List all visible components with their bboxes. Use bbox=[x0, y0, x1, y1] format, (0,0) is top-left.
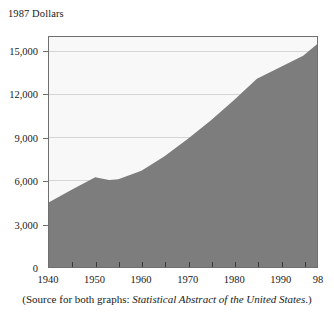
y-tick-mark bbox=[43, 181, 48, 182]
x-tick-label: 98 bbox=[313, 274, 324, 285]
x-tick-mark bbox=[282, 262, 283, 267]
area-series-fill bbox=[49, 44, 317, 267]
x-tick-mark bbox=[212, 262, 213, 267]
caption-prefix: (Source for both graphs: bbox=[22, 293, 132, 305]
area-chart-svg bbox=[49, 37, 317, 267]
y-tick-label: 15,000 bbox=[0, 45, 44, 56]
x-tick-mark bbox=[72, 262, 73, 267]
x-tick-mark bbox=[235, 262, 236, 267]
x-tick-mark bbox=[189, 262, 190, 267]
x-tick-label: 1950 bbox=[84, 274, 105, 285]
y-tick-label: 12,000 bbox=[0, 89, 44, 100]
x-tick-label: 1960 bbox=[131, 274, 152, 285]
x-tick-label: 1990 bbox=[270, 274, 291, 285]
chart-figure: 1987 Dollars 03,0006,0009,00012,00015,00… bbox=[0, 0, 334, 314]
y-tick-mark bbox=[43, 138, 48, 139]
x-tick-label: 1970 bbox=[177, 274, 198, 285]
y-tick-label: 9,000 bbox=[0, 132, 44, 143]
plot-area bbox=[48, 36, 318, 268]
y-tick-mark bbox=[43, 94, 48, 95]
x-axis-tick-labels: 19401950196019701980199098 bbox=[0, 274, 334, 290]
y-tick-label: 3,000 bbox=[0, 219, 44, 230]
source-caption: (Source for both graphs: Statistical Abs… bbox=[0, 293, 334, 305]
x-tick-label: 1940 bbox=[38, 274, 59, 285]
x-tick-mark bbox=[258, 262, 259, 267]
y-tick-mark bbox=[43, 225, 48, 226]
x-tick-mark bbox=[165, 262, 166, 267]
y-tick-mark bbox=[43, 51, 48, 52]
x-tick-mark bbox=[305, 262, 306, 267]
x-tick-mark bbox=[96, 262, 97, 267]
y-axis-tick-labels: 03,0006,0009,00012,00015,000 bbox=[0, 0, 44, 314]
y-tick-label: 0 bbox=[0, 263, 44, 274]
caption-suffix: .) bbox=[305, 293, 311, 305]
y-tick-label: 6,000 bbox=[0, 176, 44, 187]
x-tick-mark bbox=[119, 262, 120, 267]
x-tick-mark bbox=[142, 262, 143, 267]
caption-publication-title: Statistical Abstract of the United State… bbox=[132, 293, 305, 305]
x-tick-label: 1980 bbox=[224, 274, 245, 285]
